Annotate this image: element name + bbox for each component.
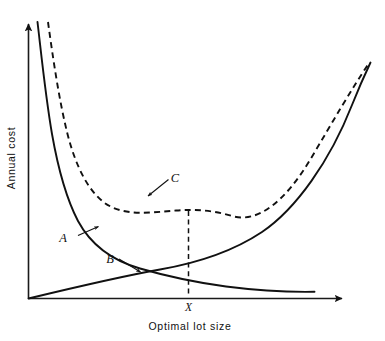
x-axis-marker-label: X [184, 301, 193, 313]
eoq-cost-chart-figure: A B C X Optimal lot size Annual cost [0, 0, 385, 341]
chart-canvas: A B C X Optimal lot size Annual cost [0, 0, 385, 341]
curve-c-total-cost [48, 22, 369, 218]
leader-line-c [148, 180, 169, 197]
curve-a-ordering-cost [38, 22, 315, 292]
x-axis-title: Optimal lot size [149, 320, 232, 332]
y-axis-title: Annual cost [5, 127, 17, 190]
leader-line-b [119, 259, 141, 272]
curve-b-carrying-cost [29, 63, 371, 299]
curve-label-c: C [171, 171, 180, 185]
axis-group [29, 24, 343, 299]
curve-label-a: A [58, 231, 67, 245]
curve-label-b: B [106, 252, 114, 266]
